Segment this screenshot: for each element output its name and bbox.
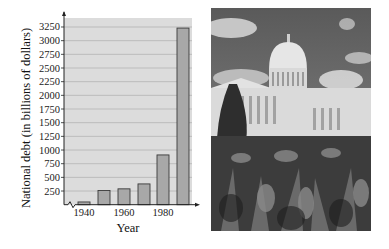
x-tick-label: 1960 — [114, 207, 135, 218]
bar-1960 — [118, 189, 130, 205]
y-tick-label: 3250 — [39, 21, 60, 32]
y-tick-label: 1000 — [39, 145, 60, 156]
bar-1980 — [157, 155, 169, 205]
y-tick-label: 500 — [44, 172, 60, 183]
bar-1950 — [98, 190, 110, 204]
bar-1990 — [177, 28, 189, 205]
y-tick-label: 1750 — [39, 104, 60, 115]
y-tick-label: 2000 — [39, 90, 60, 101]
y-tick-label: 2750 — [39, 49, 60, 60]
y-tick-label: 750 — [44, 158, 60, 169]
y-tick-label: 2500 — [39, 63, 60, 74]
capitol-building-image — [211, 8, 371, 231]
y-tick-label: 2250 — [39, 76, 60, 87]
y-tick-label: 250 — [44, 186, 60, 197]
y-tick-label: 1250 — [39, 131, 60, 142]
x-axis-title: Year — [116, 221, 140, 235]
y-axis-title: National debt (in billions of dollars) — [19, 28, 33, 208]
x-tick-label: 1940 — [74, 207, 95, 218]
bar-1970 — [138, 184, 150, 205]
capitol-photo — [211, 8, 371, 231]
x-tick-label: 1980 — [153, 207, 174, 218]
plot-background — [64, 18, 192, 205]
bar-chart: 2505007501000125015001750200022502500275… — [0, 0, 205, 249]
y-tick-label: 1500 — [39, 117, 60, 128]
x-axis-arrow-icon — [195, 203, 200, 207]
y-tick-label: 3000 — [39, 35, 60, 46]
y-axis-arrow-icon — [62, 11, 66, 16]
